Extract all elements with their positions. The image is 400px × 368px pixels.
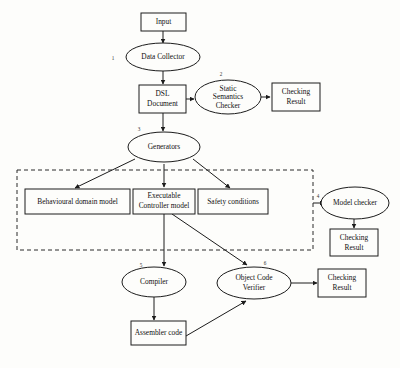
node-static-semantics-checker[interactable]: Static Semantics Checker — [195, 80, 261, 114]
node-checking-result-bottom-label-line2: Result — [333, 283, 353, 292]
node-dsl-document[interactable]: DSL Document — [139, 85, 186, 113]
node-input-label: Input — [156, 17, 173, 26]
node-input[interactable]: Input — [141, 13, 186, 31]
node-object-code-verifier-label-line1: Object Code — [235, 273, 273, 282]
node-checking-result-middle[interactable]: Checking Result — [330, 229, 378, 256]
step-label-6: 6 — [264, 260, 267, 266]
node-generators-label: Generators — [148, 142, 181, 151]
node-checking-result-bottom-label-line1: Checking — [328, 273, 357, 282]
node-object-code-verifier[interactable]: Object Code Verifier — [217, 267, 291, 299]
node-object-code-verifier-label-line2: Verifier — [243, 283, 266, 292]
node-dsl-document-label-line1: DSL — [156, 89, 170, 98]
step-label-4: 4 — [317, 193, 320, 199]
node-checking-result-middle-label-line2: Result — [345, 243, 365, 252]
step-label-1: 1 — [112, 55, 115, 61]
edge-layer — [75, 31, 354, 336]
node-safety-conditions[interactable]: Safety conditions — [198, 189, 268, 214]
node-executable-controller-model[interactable]: Executable Controller model — [133, 189, 195, 214]
node-model-checker-label: Model checker — [333, 198, 378, 207]
node-checking-result-top[interactable]: Checking Result — [272, 83, 320, 111]
node-model-checker[interactable]: Model checker — [321, 187, 389, 219]
step-label-2: 2 — [220, 71, 223, 77]
node-behavioural-domain-model[interactable]: Behavioural domain model — [25, 189, 130, 214]
node-executable-controller-model-label-line1: Executable — [148, 191, 182, 200]
diagram-canvas: Input Data Collector 1 DSL Document Stat… — [0, 0, 400, 368]
node-assembler-code[interactable]: Assembler code — [131, 321, 186, 345]
edge-assembler-code-to-object-code-verifier — [186, 301, 246, 336]
node-checking-result-bottom[interactable]: Checking Result — [318, 269, 366, 297]
node-compiler[interactable]: Compiler — [122, 267, 186, 297]
node-data-collector-label: Data Collector — [141, 52, 185, 61]
step-label-5: 5 — [140, 262, 143, 268]
edge-executable-controller-model-to-object-code-verifier — [172, 214, 247, 265]
node-data-collector[interactable]: Data Collector — [126, 43, 200, 71]
node-static-semantics-checker-label-line3: Checker — [216, 101, 241, 110]
node-checking-result-top-label-line1: Checking — [282, 87, 311, 96]
node-assembler-code-label: Assembler code — [135, 328, 183, 337]
node-generators[interactable]: Generators — [128, 132, 200, 162]
edge-generators-to-safety-conditions — [193, 159, 230, 188]
node-checking-result-middle-label-line1: Checking — [340, 233, 369, 242]
flowchart-diagram: Input Data Collector 1 DSL Document Stat… — [0, 0, 400, 368]
node-checking-result-top-label-line2: Result — [287, 97, 307, 106]
edge-generators-to-behavioural-domain-model — [75, 159, 135, 188]
step-label-3: 3 — [138, 126, 141, 132]
node-executable-controller-model-label-line2: Controller model — [139, 201, 190, 210]
node-behavioural-domain-model-label: Behavioural domain model — [37, 197, 117, 206]
node-safety-conditions-label: Safety conditions — [207, 197, 259, 206]
node-dsl-document-label-line2: Document — [147, 99, 179, 108]
node-compiler-label: Compiler — [140, 277, 168, 286]
